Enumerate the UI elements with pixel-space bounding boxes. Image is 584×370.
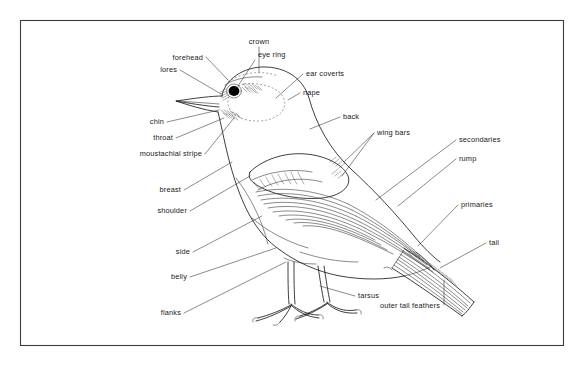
label-tarsus: tarsus: [358, 291, 379, 300]
bird-wing: [249, 154, 434, 272]
primaries-feathers: [348, 204, 433, 272]
label-back: back: [343, 112, 359, 121]
label-wing-bars: wing bars: [376, 128, 410, 137]
label-crown: crown: [249, 37, 269, 46]
label-texts: crown forehead lores eye ring ear covert…: [140, 37, 501, 317]
label-flanks: flanks: [161, 308, 181, 317]
moustachial-stripe-hatching: [221, 110, 241, 120]
label-breast: breast: [160, 185, 181, 194]
label-lores: lores: [160, 65, 177, 74]
label-shoulder: shoulder: [157, 206, 187, 215]
bird-legs-feet: [253, 258, 362, 325]
label-forehead: forehead: [173, 53, 203, 62]
bird-topography-figure: crown forehead lores eye ring ear covert…: [0, 0, 584, 370]
bird-head-detail: [220, 73, 285, 121]
bird-body-outline: [176, 67, 440, 279]
lores-hatching: [220, 89, 229, 100]
label-ear-coverts: ear coverts: [306, 69, 344, 78]
label-throat: throat: [153, 133, 173, 142]
label-primaries: primaries: [461, 200, 493, 209]
figure-border: [21, 21, 564, 346]
label-rump: rump: [459, 154, 476, 163]
label-side: side: [176, 247, 190, 256]
label-secondaries: secondaries: [459, 135, 501, 144]
ear-covert-hatching: [242, 84, 262, 94]
label-chin: chin: [150, 117, 164, 126]
bird-diagram-canvas: crown forehead lores eye ring ear covert…: [0, 0, 584, 370]
label-eye-ring: eye ring: [258, 50, 286, 59]
eye: [229, 86, 240, 96]
label-outer-tail-feathers: outer tail feathers: [380, 301, 440, 310]
label-moustachial-stripe: moustachial stripe: [140, 149, 202, 158]
label-belly: belly: [171, 272, 187, 281]
label-nape: nape: [303, 88, 320, 97]
covert-scallops: [254, 172, 304, 189]
label-tail: tail: [489, 238, 499, 247]
